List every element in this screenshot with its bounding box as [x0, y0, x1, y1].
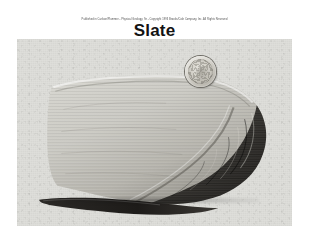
slide-canvas: Published in Carlson/Plummer - Physical …: [0, 0, 309, 240]
coin-for-scale: [185, 56, 216, 87]
page-title: Slate: [134, 22, 176, 40]
coin-face: [188, 59, 213, 84]
specimen-photo: [17, 39, 292, 226]
slate-slab-illustration: [17, 39, 292, 226]
slate-slab: [17, 39, 292, 226]
presentation-slide: Published in Carlson/Plummer - Physical …: [17, 14, 292, 226]
coin-bust-relief: [196, 66, 209, 82]
